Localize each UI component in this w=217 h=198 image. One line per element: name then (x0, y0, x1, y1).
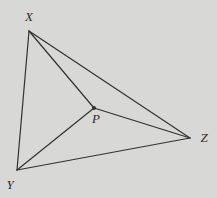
triangle-diagram: XYZP (0, 0, 217, 198)
vertex-label-P: P (91, 111, 100, 126)
point-dot-P (92, 106, 96, 110)
paper-background (0, 0, 217, 198)
vertex-label-X: X (24, 9, 34, 24)
point-dots (92, 106, 96, 110)
geometry-figure: XYZP (0, 0, 217, 198)
vertex-label-Z: Z (200, 130, 208, 145)
